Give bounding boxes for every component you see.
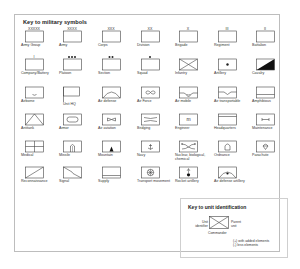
symbol-label: Bridging xyxy=(137,126,150,130)
symbol-label: Infantry xyxy=(175,71,187,75)
symbol-label: Division xyxy=(137,43,150,47)
symbol-cavalry: Cavalry xyxy=(252,54,292,80)
symbol-mountain: Mountain xyxy=(98,136,138,162)
transport-movement-icon xyxy=(141,162,161,180)
symbol-maintenance: Maintenance xyxy=(252,109,292,135)
reconnaissance-icon xyxy=(25,162,45,180)
air-aviation-icon xyxy=(102,109,122,127)
engineer-icon: m xyxy=(179,109,199,127)
antitank-icon xyxy=(25,109,45,127)
symbol-label: Rocket artillery xyxy=(175,179,199,183)
symbol-armor: Armor xyxy=(59,109,99,135)
symbol-label: Missile xyxy=(59,153,70,157)
symbol-label: Mountain xyxy=(98,153,113,157)
symbol-missile: Missile xyxy=(59,136,99,162)
supply-icon xyxy=(102,162,122,180)
symbol-air-aviation: Air aviation xyxy=(98,109,138,135)
symbol-platoon: Platoon xyxy=(59,54,99,80)
key-title: Key to military symbols xyxy=(23,19,87,25)
symbol-label: Section xyxy=(98,71,110,75)
ordnance-icon xyxy=(218,136,238,154)
symbol-label: Regiment xyxy=(214,43,229,47)
division-icon: XX xyxy=(141,26,161,44)
symbol-label: Signal xyxy=(59,179,69,183)
symbol-label: Air aviation xyxy=(98,126,116,130)
medical-icon xyxy=(25,136,45,154)
bridging-icon xyxy=(141,109,161,127)
symbol-squad: Squad xyxy=(137,54,177,80)
svg-text:XXXXX: XXXXX xyxy=(28,27,41,31)
symbol-label: Air transportable xyxy=(214,99,240,103)
symbol-army: XXXX Army xyxy=(59,26,99,52)
symbol-label: Maintenance xyxy=(252,126,273,130)
symbol-label: Corps xyxy=(98,43,108,47)
svg-text:II: II xyxy=(264,27,266,31)
symbol-air-force: Air Force xyxy=(137,82,177,108)
headquarters-icon xyxy=(218,109,238,127)
symbol-bridging: Bridging xyxy=(137,109,177,135)
symbol-label: Airborne xyxy=(21,99,35,103)
amphibious-icon xyxy=(256,82,276,100)
symbol-label: Medical xyxy=(21,153,33,157)
symbol-signal: Signal xyxy=(59,162,99,188)
symbol-label: Unit HQ xyxy=(63,102,76,106)
symbol-air-defense: Air defense xyxy=(98,82,138,108)
svg-text:X: X xyxy=(187,27,190,31)
unit-identification-diagram-icon xyxy=(209,216,229,230)
symbol-regiment: III Regiment xyxy=(214,26,254,52)
brigade-icon: X xyxy=(179,26,199,44)
company-battery-icon: I xyxy=(25,54,45,72)
symbol-label: Amphibious xyxy=(252,99,271,103)
symbol-label: Artillery xyxy=(214,71,226,75)
symbol-label: Brigade xyxy=(175,43,187,47)
battalion-icon: II xyxy=(256,26,276,44)
symbol-label: Headquarters xyxy=(214,126,236,130)
symbol-label: Battalion xyxy=(252,43,266,47)
symbol-label: Antitank xyxy=(21,126,34,130)
air-force-icon xyxy=(141,82,161,100)
artillery-icon xyxy=(218,54,238,72)
symbol-ordnance: Ordnance xyxy=(214,136,254,162)
infantry-icon xyxy=(179,54,199,72)
platoon-icon xyxy=(63,54,83,72)
symbol-transport-movement: Transport movement xyxy=(137,162,177,188)
section-icon xyxy=(102,54,122,72)
symbol-label: Company/Battery xyxy=(21,71,49,75)
symbol-artillery: Artillery xyxy=(214,54,254,80)
symbol-label: Engineer xyxy=(175,126,189,130)
symbol-army-group: XXXXX Army Group xyxy=(21,26,61,52)
svg-text:XX: XX xyxy=(148,27,153,31)
symbol-unit-hq: Unit HQ xyxy=(59,82,99,108)
symbol-label: Armor xyxy=(59,126,69,130)
symbol-label: Air defense artillery xyxy=(214,179,245,183)
corps-icon: XXX xyxy=(102,26,122,44)
symbol-amphibious: Amphibious xyxy=(252,82,292,108)
symbol-infantry: Infantry xyxy=(175,54,215,80)
symbol-label: Navy xyxy=(137,153,145,157)
symbol-air-mobile: Air mobile xyxy=(175,82,215,108)
svg-text:I: I xyxy=(34,55,35,59)
symbol-nbc: Nuclear, biological, chemical xyxy=(175,136,215,162)
symbol-label: Reconnaissance xyxy=(21,179,48,183)
svg-text:XXXX: XXXX xyxy=(67,27,77,31)
symbol-label: Transport movement xyxy=(137,179,171,183)
squad-icon xyxy=(141,54,161,72)
nuclear-biological-chemical-icon xyxy=(179,136,199,154)
symbol-corps: XXX Corps xyxy=(98,26,138,52)
military-symbols-key: Key to military symbols XXXXX Army Group… xyxy=(14,14,280,252)
mountain-icon xyxy=(102,136,122,154)
signal-icon xyxy=(63,162,83,180)
regiment-icon: III xyxy=(218,26,238,44)
symbol-label: Squad xyxy=(137,71,147,75)
symbol-parachute: Parachute xyxy=(252,136,292,162)
symbol-medical: Medical xyxy=(21,136,61,162)
parachute-icon xyxy=(256,136,276,154)
unit-identifier-label: Unit identifier xyxy=(190,220,208,228)
army-icon: XXXX xyxy=(63,26,83,44)
symbol-label: Air defense xyxy=(98,99,116,103)
symbol-rocket-artillery: Rocket artillery xyxy=(175,162,215,188)
unit-key-title: Key to unit identification xyxy=(188,204,246,210)
less-elements-note: (-) less elements xyxy=(233,243,258,247)
symbol-brigade: X Brigade xyxy=(175,26,215,52)
symbol-company-battery: I Company/Battery xyxy=(21,54,61,80)
